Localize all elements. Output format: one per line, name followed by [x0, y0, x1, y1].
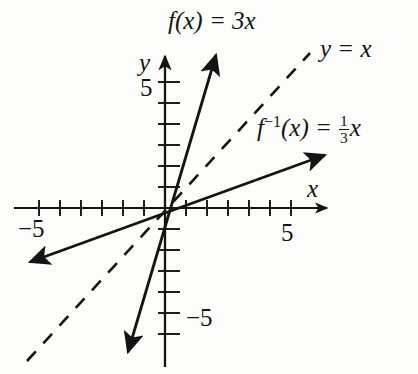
y-axis-label: y: [139, 50, 150, 75]
x-axis-label: x: [307, 176, 318, 201]
annotation-identity-line: y = x: [320, 36, 372, 61]
annotation-f-inverse-exponent: −1: [264, 113, 281, 130]
annotation-function-f-inverse: f−1(x) = 13x: [257, 113, 361, 146]
fraction-numerator: 1: [339, 113, 349, 130]
annotation-f-inverse-fraction: 13: [339, 113, 349, 146]
fraction-denominator: 3: [339, 130, 349, 146]
y-axis-tick-label-positive-5: 5: [140, 75, 153, 100]
identity-line-y-equals-x: [27, 53, 310, 361]
annotation-function-f-lead: f: [168, 7, 175, 34]
annotation-function-f-rest: (x) = 3x: [175, 7, 256, 34]
annotation-f-inverse-tail: x: [350, 114, 361, 141]
annotation-f-inverse-lead: f: [257, 114, 264, 141]
annotation-f-inverse-mid: (x) =: [281, 114, 332, 141]
annotation-function-f: f(x) = 3x: [168, 8, 256, 33]
graph-figure: f(x) = 3x y = x f−1(x) = 13x x y 5 −5 5 …: [0, 0, 418, 374]
y-axis-tick-label-negative-5: −5: [186, 305, 213, 330]
x-axis-tick-label-positive-5: 5: [281, 220, 294, 245]
x-axis-tick-label-negative-5: −5: [18, 216, 45, 241]
